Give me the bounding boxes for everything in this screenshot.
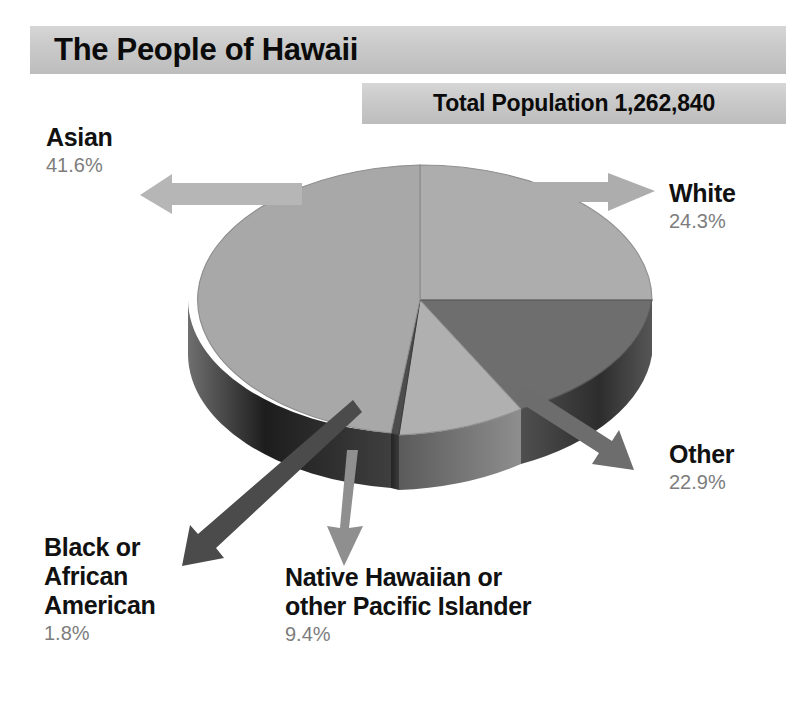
pie-side-black [391,433,399,490]
callout-native-hawaiian-pacific-islander: Native Hawaiian or other Pacific Islande… [285,563,531,647]
callout-nhpi-label-line1: Native Hawaiian or [285,563,531,592]
callout-nhpi-label-line2: other Pacific Islander [285,592,531,621]
chart-canvas: The People of Hawaii Total Population 1,… [0,0,810,713]
callout-white-percent: 24.3% [669,209,736,234]
callout-white-label: White [669,179,736,208]
callout-other-percent: 22.9% [669,470,734,495]
callout-black-or-african-american: Black or African American 1.8% [44,533,156,646]
callout-asian-percent: 41.6% [46,153,113,178]
callout-white: White 24.3% [669,179,736,234]
callout-black-percent: 1.8% [44,621,156,646]
callout-nhpi-percent: 9.4% [285,622,531,647]
callout-black-label-line2: African [44,562,156,591]
callout-asian: Asian 41.6% [46,123,113,178]
callout-other: Other 22.9% [669,440,734,495]
callout-other-label: Other [669,440,734,469]
callout-asian-label: Asian [46,123,113,152]
callout-black-label-line3: American [44,591,156,620]
callout-black-label-line1: Black or [44,533,156,562]
